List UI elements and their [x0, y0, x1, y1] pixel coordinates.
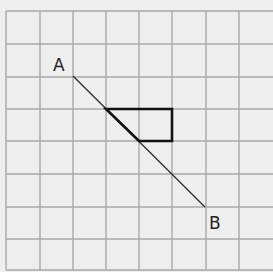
label-a: A [53, 55, 65, 75]
grid-diagram: A B [0, 0, 273, 272]
label-b: B [209, 213, 221, 233]
